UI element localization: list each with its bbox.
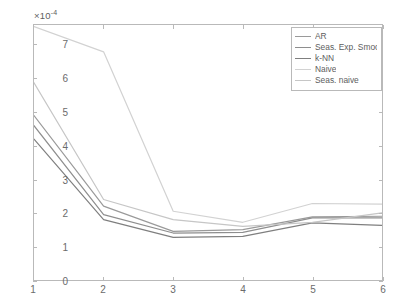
legend-item[interactable]: Seas. naive [295, 75, 377, 86]
legend-item-label: Seas. naive [315, 75, 359, 86]
y-tick-label: 2 [48, 208, 68, 219]
x-tick-mark-top [243, 25, 244, 29]
y-tick-mark [33, 78, 37, 79]
y-tick-mark-right [379, 281, 383, 282]
y-tick-mark-right [379, 112, 383, 113]
legend-item-label: AR [315, 31, 327, 42]
x-tick-mark [103, 277, 104, 281]
legend-item[interactable]: Naive [295, 64, 377, 75]
x-tick-mark [33, 277, 34, 281]
y-tick-mark [33, 213, 37, 214]
x-tick-label: 4 [233, 284, 253, 295]
x-tick-label: 3 [163, 284, 183, 295]
x-tick-label: 5 [303, 284, 323, 295]
x-tick-label: 6 [373, 284, 393, 295]
y-tick-label: 0 [48, 276, 68, 287]
y-tick-mark [33, 112, 37, 113]
x-tick-mark-top [33, 25, 34, 29]
y-tick-mark-right [379, 213, 383, 214]
y-tick-label: 6 [48, 73, 68, 84]
legend-line-swatch [295, 69, 311, 70]
x-tick-mark [383, 277, 384, 281]
legend-item-label: k-NN [315, 53, 334, 64]
x-tick-label: 1 [23, 284, 43, 295]
x-tick-mark [243, 277, 244, 281]
x-tick-mark-top [103, 25, 104, 29]
y-tick-label: 5 [48, 106, 68, 117]
y-tick-mark [33, 281, 37, 282]
y-tick-mark-right [379, 146, 383, 147]
y-tick-label: 3 [48, 174, 68, 185]
legend-line-swatch [295, 80, 311, 81]
y-tick-mark [33, 180, 37, 181]
series-line [34, 116, 382, 232]
series-line [34, 83, 382, 227]
legend-item[interactable]: AR [295, 31, 377, 42]
x-tick-mark-top [173, 25, 174, 29]
y-tick-label: 7 [48, 39, 68, 50]
legend-item-label: Seas. Exp. Smooth. [315, 42, 377, 53]
x-tick-label: 2 [93, 284, 113, 295]
y-tick-label: 4 [48, 140, 68, 151]
y-tick-mark [33, 247, 37, 248]
legend-box: ARSeas. Exp. Smooth.k-NNNaiveSeas. naive [291, 27, 382, 91]
legend-item[interactable]: k-NN [295, 53, 377, 64]
y-tick-mark-right [379, 180, 383, 181]
legend-line-swatch [295, 47, 311, 48]
exponent-base: ×10 [34, 10, 51, 21]
x-tick-mark [173, 277, 174, 281]
exponent-power: -4 [51, 9, 58, 16]
y-tick-mark [33, 44, 37, 45]
legend-item[interactable]: Seas. Exp. Smooth. [295, 42, 377, 53]
legend-line-swatch [295, 58, 311, 59]
y-tick-mark [33, 146, 37, 147]
legend-item-label: Naive [315, 64, 336, 75]
y-tick-label: 1 [48, 242, 68, 253]
y-tick-mark-right [379, 247, 383, 248]
y-axis-exponent-label: ×10-4 [34, 9, 57, 21]
x-tick-mark [313, 277, 314, 281]
figure-container: ×10-4 01234567123456 ARSeas. Exp. Smooth… [0, 0, 399, 306]
x-tick-mark-top [383, 25, 384, 29]
figure-title [0, 1, 399, 11]
legend-line-swatch [295, 36, 311, 37]
